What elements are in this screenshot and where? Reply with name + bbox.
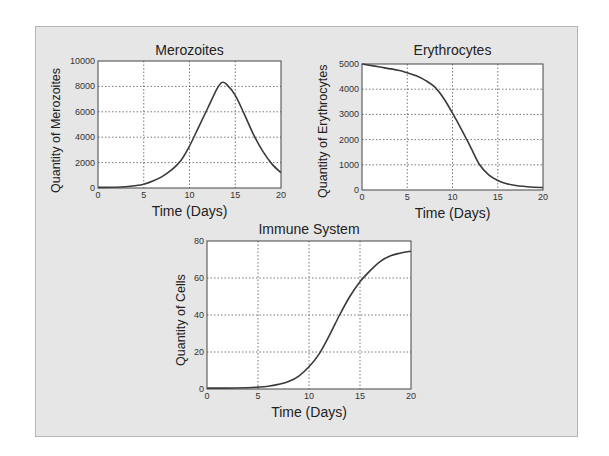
y-axis-label: Quantity of Cells <box>174 274 188 366</box>
svg-text:15: 15 <box>355 391 365 401</box>
svg-text:80: 80 <box>194 236 204 246</box>
svg-text:0: 0 <box>199 384 204 394</box>
svg-text:40: 40 <box>194 310 204 320</box>
svg-text:60: 60 <box>194 273 204 283</box>
svg-text:20: 20 <box>194 347 204 357</box>
plot-area: 05101520020406080 <box>0 0 609 456</box>
svg-text:5: 5 <box>255 391 260 401</box>
chart-immune-system: Immune System 05101520020406080 Time (Da… <box>0 0 609 456</box>
svg-text:0: 0 <box>204 391 209 401</box>
svg-text:20: 20 <box>406 391 416 401</box>
svg-text:10: 10 <box>304 391 314 401</box>
x-axis-label: Time (Days) <box>207 404 411 420</box>
